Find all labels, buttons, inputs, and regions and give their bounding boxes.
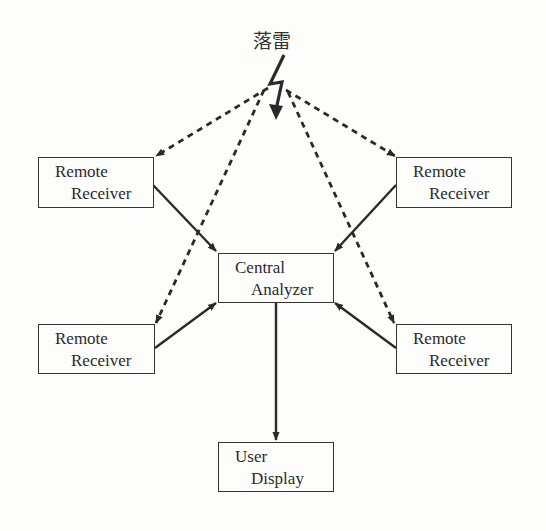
solid-edge-top-right-to-central: [335, 185, 396, 251]
solid-edge-bottom-right-to-central: [335, 303, 396, 348]
user-display: User Display: [218, 442, 334, 492]
remote-receiver-bottom-left: Remote Receiver: [38, 324, 155, 374]
dashed-edge-lightning-to-top-left: [156, 88, 268, 156]
remote-receiver-bottom-right: Remote Receiver: [396, 324, 512, 374]
node-label-line1: Remote: [55, 161, 108, 183]
node-label-line2: Receiver: [71, 350, 131, 372]
node-label-line2: Analyzer: [251, 279, 313, 301]
node-label-line2: Receiver: [71, 183, 131, 205]
node-label-line1: User: [235, 446, 267, 468]
remote-receiver-top-right: Remote Receiver: [396, 157, 512, 208]
node-label-line1: Remote: [55, 328, 108, 350]
node-label-line1: Central: [235, 257, 285, 279]
solid-edge-top-left-to-central: [153, 185, 216, 251]
node-label-line2: Receiver: [429, 183, 489, 205]
node-label-line2: Display: [251, 468, 304, 490]
remote-receiver-top-left: Remote Receiver: [38, 157, 154, 208]
lightning-bolt-icon: [269, 55, 284, 120]
node-label-line1: Remote: [413, 328, 466, 350]
node-label-line2: Receiver: [429, 350, 489, 372]
lightning-strike-label: 落雷: [253, 26, 291, 53]
solid-edge-bottom-left-to-central: [155, 303, 216, 348]
central-analyzer: Central Analyzer: [218, 253, 334, 303]
node-label-line1: Remote: [413, 161, 466, 183]
